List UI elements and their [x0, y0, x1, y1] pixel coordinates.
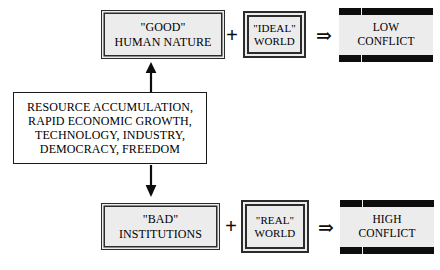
implies-arrow-top: ⇒: [311, 24, 337, 46]
top-bar-low-conflict: [339, 8, 433, 15]
node-drivers-label: RESOURCE ACCUMULATION, RAPID ECONOMIC GR…: [27, 100, 193, 157]
bottom-bar-low-conflict: [339, 55, 433, 62]
node-ideal-world: "IDEAL" WORLD: [243, 11, 306, 58]
node-ideal-world-label: "IDEAL" WORLD: [253, 22, 296, 48]
node-real-world: "REAL" WORLD: [241, 200, 309, 253]
node-drivers: RESOURCE ACCUMULATION, RAPID ECONOMIC GR…: [13, 92, 207, 164]
implies-arrow-bottom: ⇒: [313, 216, 339, 238]
node-bad-institutions: "BAD" INSTITUTIONS: [101, 203, 220, 250]
node-high-conflict: HIGH CONFLICT: [340, 200, 434, 254]
node-good-human-nature-label: "GOOD" HUMAN NATURE: [115, 20, 212, 48]
node-real-world-label: "REAL" WORLD: [255, 214, 296, 240]
connector-drivers-to-bad-institutions: [140, 165, 162, 197]
node-low-conflict: LOW CONFLICT: [339, 8, 433, 62]
flow-diagram: "GOOD" HUMAN NATURE + "IDEAL" WORLD ⇒ LO…: [0, 0, 440, 270]
plus-operator-bottom: +: [222, 217, 240, 235]
bottom-bar-high-conflict: [340, 247, 434, 254]
node-high-conflict-label: HIGH CONFLICT: [358, 213, 415, 240]
node-low-conflict-label: LOW CONFLICT: [357, 21, 414, 48]
connector-drivers-to-good-human-nature: [140, 62, 162, 92]
node-good-human-nature: "GOOD" HUMAN NATURE: [101, 10, 225, 59]
plus-operator-top: +: [223, 26, 241, 44]
node-bad-institutions-label: "BAD" INSTITUTIONS: [119, 212, 202, 240]
top-bar-high-conflict: [340, 200, 434, 207]
